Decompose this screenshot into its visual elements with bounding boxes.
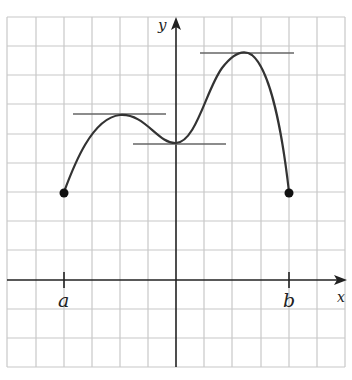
x-axis-label: x [337,289,345,305]
endpoint-b [285,189,294,198]
graph-canvas: y x a b [0,0,352,380]
function-graph-diagram: y x a b [0,0,352,380]
x-axis [7,275,347,285]
interval-right-label: b [283,289,295,311]
endpoint-a [60,189,69,198]
interval-left-label: a [58,289,69,311]
y-axis-label: y [157,16,167,34]
